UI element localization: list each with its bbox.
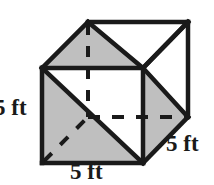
- dimension-label-bottom: 5 ft: [70, 160, 103, 183]
- dimension-label-right: 5 ft: [166, 132, 199, 155]
- cube-figure: 5 ft 5 ft 5 ft: [0, 0, 214, 185]
- cube-drawing: [0, 0, 214, 185]
- dimension-label-left: 5 ft: [0, 96, 27, 119]
